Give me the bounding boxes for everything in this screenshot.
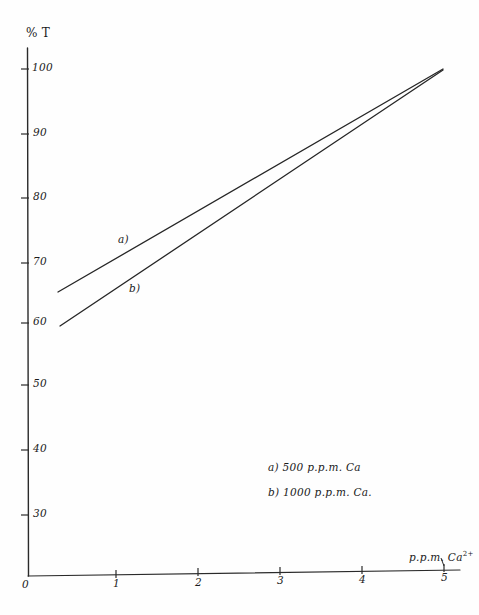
- y-axis-line: [28, 48, 29, 576]
- x-tick-label-4: 4: [359, 573, 366, 585]
- y-tick-label-90: 90: [33, 126, 47, 138]
- curve-label-b: b): [129, 282, 140, 294]
- x-tick-label-2: 2: [195, 576, 202, 588]
- legend-item-a: a) 500 p.p.m. Ca: [268, 461, 361, 473]
- x-tick-label-5: 5: [441, 571, 448, 583]
- y-tick-label-60: 60: [33, 315, 47, 327]
- y-tick-label-80: 80: [33, 190, 47, 202]
- legend-item-b: b) 1000 p.p.m. Ca.: [268, 486, 372, 498]
- x-axis-title: p.p.m. Ca2+: [409, 550, 474, 563]
- y-axis-title: % T: [26, 26, 50, 40]
- x-tick-label-1: 1: [113, 577, 120, 589]
- curve-b: [60, 70, 443, 326]
- x-axis-line: [28, 570, 460, 576]
- curve-a: [58, 69, 443, 292]
- y-tick-label-30: 30: [33, 507, 47, 519]
- x-axis-title-base: p.p.m. Ca: [409, 551, 463, 563]
- x-tick-label-3: 3: [277, 574, 284, 586]
- y-tick-label-70: 70: [33, 255, 47, 267]
- curve-label-a: a): [118, 233, 129, 245]
- x-tick-label-0: 0: [22, 578, 29, 590]
- y-tick-label-50: 50: [33, 377, 47, 389]
- x-axis-title-superscript: 2+: [463, 550, 474, 558]
- hand-drawn-plot: [0, 0, 479, 615]
- y-tick-label-100: 100: [32, 61, 53, 73]
- graph-page: % T 100 90 80 70 60 50 40 30 0 1 2 3 4 5…: [0, 0, 479, 615]
- y-tick-label-40: 40: [33, 442, 47, 454]
